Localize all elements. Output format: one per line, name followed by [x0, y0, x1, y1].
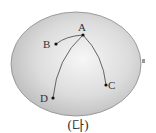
diagram-stage: A B C D (다) [0, 0, 156, 133]
point-a [81, 33, 84, 36]
sphere-diagram: A B C D [0, 0, 156, 133]
point-b [54, 42, 57, 45]
point-d [51, 96, 54, 99]
label-a: A [78, 21, 86, 33]
label-d: D [40, 92, 48, 104]
sphere-surface [11, 12, 141, 116]
figure-caption: (다) [0, 115, 156, 133]
edge-mark [142, 59, 145, 63]
label-c: C [108, 79, 115, 91]
label-b: B [43, 38, 50, 50]
